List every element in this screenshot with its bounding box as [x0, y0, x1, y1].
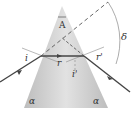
label-deviation-angle: δ	[121, 31, 127, 42]
deviation-arc	[108, 2, 120, 64]
label-base-angle-right: α	[93, 96, 99, 106]
label-base-angle-left: α	[29, 96, 35, 106]
label-refraction-angle-first: r	[57, 58, 62, 68]
label-apex-angle: A	[58, 20, 66, 30]
incident-ray	[0, 56, 41, 82]
label-refraction-angle-second: r'	[96, 52, 103, 62]
prism-diagram: A i r r' i' δ α α	[0, 0, 133, 114]
label-incidence-angle: i	[25, 53, 28, 63]
label-emergence-angle: i'	[72, 69, 77, 79]
